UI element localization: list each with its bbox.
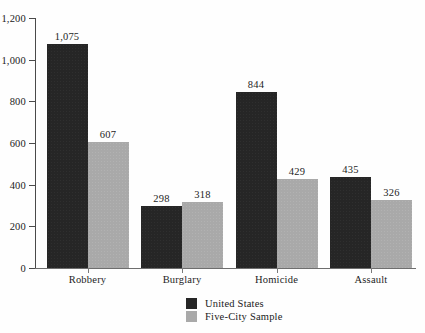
bar-value-label: 298 [153, 193, 169, 204]
y-axis-line [35, 18, 36, 268]
bar-value-label: 429 [289, 166, 305, 177]
bar-chart-figure: 02004006008001,0001,200 1,07560729831884… [0, 0, 425, 333]
bar: 607 [88, 142, 129, 268]
y-axis-tick [29, 60, 35, 61]
x-axis-line [35, 268, 416, 269]
y-axis-tick [29, 143, 35, 144]
y-axis-tick-label: 400 [10, 179, 26, 190]
plot-area: 02004006008001,0001,200 1,07560729831884… [35, 18, 416, 268]
bar: 844 [236, 92, 277, 268]
bar: 429 [277, 179, 318, 268]
y-axis-tick-label: 600 [10, 138, 26, 149]
category-label: Assault [355, 274, 388, 285]
y-axis-tick-label: 1,000 [1, 54, 26, 65]
bar-value-label: 435 [342, 164, 358, 175]
bar: 318 [182, 202, 223, 268]
y-axis-tick [29, 226, 35, 227]
bar-value-label: 318 [194, 189, 210, 200]
bar: 298 [141, 206, 182, 268]
bar: 435 [330, 177, 371, 268]
legend-label-five-city-sample: Five-City Sample [205, 311, 283, 322]
x-axis-tick [182, 268, 183, 273]
legend-item-five-city-sample: Five-City Sample [186, 310, 283, 323]
legend-swatch-icon-united-states [186, 298, 197, 309]
bar-value-label: 844 [248, 79, 264, 90]
y-axis-tick [29, 268, 35, 269]
bar: 1,075 [47, 44, 88, 268]
y-axis-tick [29, 185, 35, 186]
legend-swatch-icon-five-city-sample [186, 311, 197, 322]
y-axis-tick [29, 101, 35, 102]
bar-value-label: 1,075 [55, 31, 80, 42]
category-label: Burglary [163, 274, 202, 285]
category-label: Robbery [69, 274, 107, 285]
y-axis-tick [29, 18, 35, 19]
bar-value-label: 607 [100, 129, 116, 140]
y-axis-tick-label: 0 [21, 263, 26, 274]
x-axis-tick [277, 268, 278, 273]
legend-label-united-states: United States [205, 298, 264, 309]
x-axis-tick [88, 268, 89, 273]
y-axis-tick-label: 200 [10, 221, 26, 232]
bar: 326 [371, 200, 412, 268]
y-axis-tick-label: 800 [10, 96, 26, 107]
category-label: Homicide [255, 274, 298, 285]
chart-legend: United States Five-City Sample [186, 297, 283, 323]
legend-item-united-states: United States [186, 297, 283, 310]
bar-value-label: 326 [383, 187, 399, 198]
x-axis-tick [371, 268, 372, 273]
y-axis-tick-label: 1,200 [1, 13, 26, 24]
